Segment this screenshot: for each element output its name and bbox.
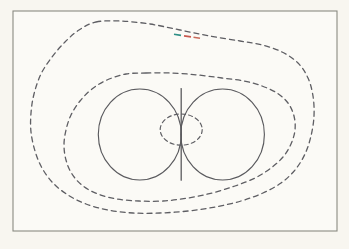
red-dash-2 [194,37,201,38]
figure-frame [13,11,337,231]
red-dash-1 [184,36,191,37]
contour-figure [0,0,349,249]
figure-container [0,0,349,249]
